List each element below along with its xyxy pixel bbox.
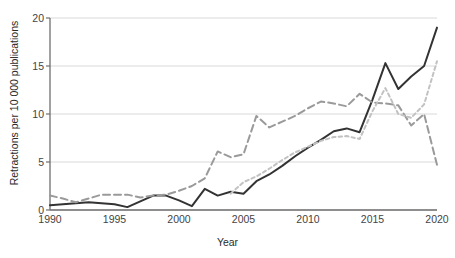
chart-canvas — [0, 0, 455, 258]
series-line-solid-black-series — [50, 28, 437, 208]
data-series-layer — [50, 28, 437, 208]
series-line-gray-long-dash-series — [50, 94, 437, 202]
chart-figure: Retractions per 10 000 publications Year… — [0, 0, 455, 258]
grid-lines — [50, 18, 437, 210]
